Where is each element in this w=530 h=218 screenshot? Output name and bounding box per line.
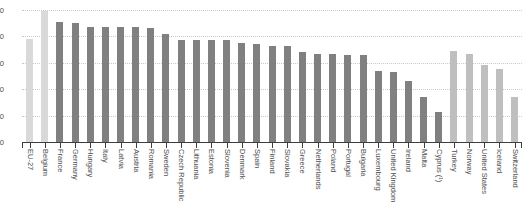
- bar: [117, 27, 124, 142]
- tick-mark: [227, 142, 228, 148]
- bar: [208, 40, 215, 142]
- x-axis-label: Iceland: [496, 149, 504, 173]
- bar-slot: [507, 10, 522, 142]
- x-axis-label: Slovakia: [283, 149, 291, 177]
- x-axis-label: Spain: [253, 149, 261, 168]
- bar: [178, 40, 185, 142]
- xlabel-slot: Cyprus (¹): [431, 149, 446, 218]
- tick-mark: [454, 142, 455, 148]
- xlabel-slot: Italy: [98, 149, 113, 218]
- tick-slot: [234, 142, 249, 148]
- tick-slot: [295, 142, 310, 148]
- xlabel-slot: Bulgaria: [355, 149, 370, 218]
- bar: [329, 54, 336, 142]
- tick-mark: [45, 142, 46, 148]
- tick-slot: [492, 142, 507, 148]
- bar-slot: [143, 10, 158, 142]
- bar: [72, 23, 79, 142]
- tick-slot: [371, 142, 386, 148]
- tick-slot: [265, 142, 280, 148]
- xlabel-slot: Denmark: [234, 149, 249, 218]
- bar-slot: [189, 10, 204, 142]
- x-axis-category-labels: EU-27BelgiumFranceGermanyHungaryItalyLat…: [22, 149, 522, 218]
- x-axis-label: Turkey: [450, 149, 458, 172]
- xlabel-slot: Czech Republic: [174, 149, 189, 218]
- xlabel-slot: Ireland: [401, 149, 416, 218]
- bar: [223, 40, 230, 142]
- tick-slot: [386, 142, 401, 148]
- bar: [41, 11, 48, 142]
- tick-slot: [401, 142, 416, 148]
- bar: [147, 28, 154, 142]
- y-axis-tick-label: 50: [0, 7, 4, 15]
- bar-slot: [174, 10, 189, 142]
- tick-mark: [151, 142, 152, 148]
- xlabel-slot: Finland: [265, 149, 280, 218]
- y-axis-tick-label: 30: [0, 59, 4, 67]
- xlabel-slot: Netherlands: [310, 149, 325, 218]
- x-axis-label: Slovenia: [223, 149, 231, 178]
- x-axis-label: Luxembourg: [374, 149, 382, 191]
- tick-mark: [136, 142, 137, 148]
- tick-mark: [348, 142, 349, 148]
- xlabel-slot: Turkey: [446, 149, 461, 218]
- bar: [405, 81, 412, 142]
- bar: [450, 51, 457, 142]
- bar: [87, 27, 94, 142]
- tick-slot: [477, 142, 492, 148]
- xlabel-slot: Romania: [143, 149, 158, 218]
- bar: [466, 54, 473, 142]
- bar: [481, 65, 488, 142]
- x-axis-label: United Kingdom: [389, 149, 397, 202]
- bar-slot: [52, 10, 67, 142]
- bar-slot: [446, 10, 461, 142]
- tick-slot: [416, 142, 431, 148]
- tick-mark: [333, 142, 334, 148]
- bar: [299, 52, 306, 142]
- tick-slot: [249, 142, 264, 148]
- tick-mark: [302, 142, 303, 148]
- x-axis-label: Portugal: [344, 149, 352, 177]
- x-axis-label: EU-27: [26, 149, 33, 170]
- xlabel-slot: Greece: [295, 149, 310, 218]
- x-axis-label: Norway: [465, 149, 473, 174]
- tick-slot: [83, 142, 98, 148]
- tick-mark: [211, 142, 212, 148]
- tick-mark: [484, 142, 485, 148]
- tick-slot: [325, 142, 340, 148]
- tick-mark: [424, 142, 425, 148]
- bar-slot: [355, 10, 370, 142]
- xlabel-slot: Lithuania: [189, 149, 204, 218]
- bar-slot: [219, 10, 234, 142]
- bar-slot: [310, 10, 325, 142]
- tick-mark: [439, 142, 440, 148]
- tick-mark: [499, 142, 500, 148]
- x-axis-label: Romania: [147, 149, 155, 179]
- bar-slot: [431, 10, 446, 142]
- tick-mark: [469, 142, 470, 148]
- tick-slot: [189, 142, 204, 148]
- x-axis-label: Finland: [268, 149, 276, 174]
- y-axis-tick-label: 0: [0, 139, 4, 147]
- bar: [102, 27, 109, 142]
- tick-mark: [272, 142, 273, 148]
- xlabel-slot: Iceland: [492, 149, 507, 218]
- x-axis-label: Italy: [101, 149, 109, 163]
- bar: [435, 112, 442, 142]
- bar-slot: [113, 10, 128, 142]
- x-axis-label: Poland: [329, 149, 337, 172]
- x-axis-label: Lithuania: [192, 149, 200, 179]
- xlabel-slot: Switzerland: [507, 149, 522, 218]
- x-axis-tick-marks: [22, 142, 522, 148]
- bar-slot: [462, 10, 477, 142]
- bar: [390, 72, 397, 142]
- x-axis-label: Estonia: [208, 149, 216, 174]
- xlabel-slot: France: [52, 149, 67, 218]
- xlabel-slot: United States: [477, 149, 492, 218]
- x-axis-label: Hungary: [86, 149, 94, 177]
- tick-mark: [408, 142, 409, 148]
- x-axis-label: Latvia: [117, 149, 125, 169]
- tick-slot: [22, 142, 37, 148]
- bar-slot: [158, 10, 173, 142]
- x-axis-label: Malta: [420, 149, 428, 167]
